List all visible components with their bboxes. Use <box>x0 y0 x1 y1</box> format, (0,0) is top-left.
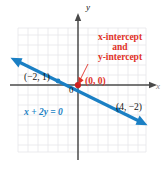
y-axis-label: y <box>86 3 90 12</box>
y-axis-arrowhead <box>75 13 81 21</box>
origin-label: 0 <box>69 86 74 95</box>
equation-label: x + 2y = 0 <box>24 108 63 118</box>
x-axis-label: x <box>156 82 160 91</box>
point-minus2-1 <box>56 79 61 84</box>
point-label-minus2-1: (−2, 1) <box>24 73 50 83</box>
intercept-annotation: x-intercept and y-intercept <box>83 33 157 63</box>
annotation-line-3: y-intercept <box>83 53 157 63</box>
coordinate-plane-svg <box>0 0 164 170</box>
point-label-4-minus2: (4, −2) <box>116 103 142 113</box>
graph-figure: y x 0 (−2, 1) (4, −2) x + 2y = 0 x-inter… <box>0 0 164 170</box>
origin-point-label: (0, 0) <box>85 77 106 87</box>
